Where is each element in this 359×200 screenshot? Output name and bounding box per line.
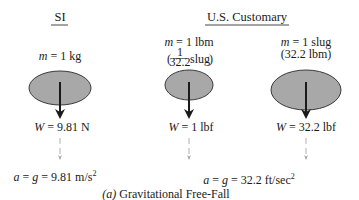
weight-label: W = 1 lbf — [168, 120, 213, 134]
weight-label: W = 32.2 lbf — [276, 120, 336, 134]
case-us-slug: m = 1 slug (32.2 lbm) W = 32.2 lbf — [271, 35, 341, 159]
case-si-kg: m = 1 kg W = 9.81 N — [29, 49, 91, 159]
fraction-unit: slug — [190, 52, 210, 66]
case-us-lbm: m = 1 lbm ( 1 32.2 slug ) W = 1 lbf — [164, 35, 214, 159]
si-header: SI — [54, 10, 65, 24]
mass-label: m = 1 kg — [39, 49, 81, 63]
us-acceleration-label: a = g = 32.2 ft/sec2 — [203, 172, 295, 187]
figure-caption: (a) Gravitational Free-Fall — [102, 187, 230, 200]
mass-alt-label: (32.2 lbm) — [281, 47, 332, 61]
weight-label: W = 9.81 N — [34, 120, 90, 134]
mass-label: m = 1 lbm — [164, 35, 214, 49]
si-acceleration-label: a = g = 9.81 m/s2 — [14, 169, 97, 184]
us-header: U.S. Customary — [207, 10, 288, 24]
free-fall-diagram: SI U.S. Customary m = 1 kg W = 9.81 N m … — [0, 0, 359, 200]
fraction-denominator: 32.2 — [170, 55, 191, 69]
right-paren: ) — [209, 52, 213, 66]
